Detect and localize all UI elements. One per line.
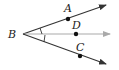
angle-mark-lower <box>44 35 45 42</box>
ray-bc <box>23 34 106 64</box>
angle-mark-upper <box>40 28 42 34</box>
label-a: A <box>63 2 72 15</box>
diagram-canvas: B A D C <box>0 0 119 70</box>
label-c: C <box>76 41 85 54</box>
label-d: D <box>71 19 81 32</box>
point-a <box>66 17 70 21</box>
angle-bisector-diagram: B A D C <box>0 0 119 70</box>
point-c <box>78 54 82 58</box>
point-d <box>74 32 78 36</box>
label-b: B <box>7 28 16 41</box>
